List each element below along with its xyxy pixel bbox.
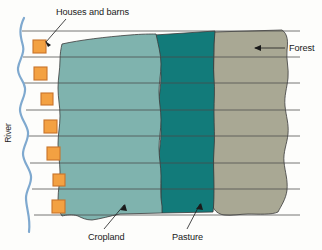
label-river: River (3, 123, 13, 143)
label-forest: Forest (289, 43, 315, 53)
forest-band (213, 30, 288, 215)
house-barn-marker (41, 93, 53, 105)
houses-leader-line (46, 19, 66, 42)
diagram-canvas: Houses and barns Forest Cropland Pasture… (0, 0, 322, 250)
house-barn-marker (47, 147, 60, 160)
label-houses-and-barns: Houses and barns (56, 7, 129, 17)
pasture-band (155, 31, 215, 213)
label-pasture: Pasture (172, 232, 203, 242)
land-bands (58, 30, 288, 220)
house-barn-marker (53, 174, 65, 186)
land-use-diagram: Houses and barns Forest Cropland Pasture… (0, 0, 322, 250)
house-barn-marker (34, 67, 47, 80)
label-cropland: Cropland (88, 232, 124, 242)
cropland-band (58, 34, 162, 220)
river-line (18, 18, 31, 232)
house-barn-marker (52, 200, 65, 213)
house-barn-marker (44, 120, 57, 133)
house-barn-marker (33, 40, 46, 53)
